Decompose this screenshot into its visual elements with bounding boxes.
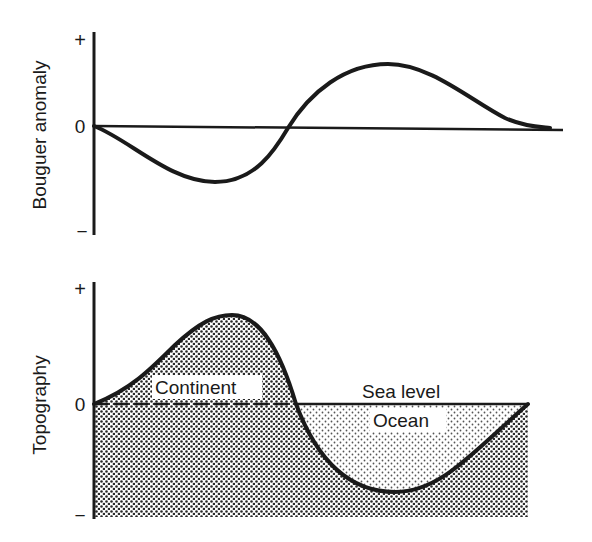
bottom-tick-plus: + <box>74 278 86 300</box>
continent-label: Continent <box>155 377 237 398</box>
diagram-canvas: Bouguer anomaly + 0 − Topography + 0 − C… <box>0 0 592 542</box>
bottom-tick-minus: − <box>74 505 85 526</box>
top-tick-minus: − <box>76 221 87 242</box>
bouguer-ylabel: Bouguer anomaly <box>29 60 50 209</box>
bottom-tick-zero: 0 <box>75 394 86 415</box>
bouguer-anomaly-panel: Bouguer anomaly + 0 − <box>29 29 563 242</box>
sea-level-label: Sea level <box>362 381 440 402</box>
topography-panel: Topography + 0 − Continent Sea level Oce… <box>29 278 528 526</box>
bouguer-anomaly-curve <box>94 64 550 182</box>
top-zero-line <box>94 126 563 130</box>
top-tick-plus: + <box>74 29 86 51</box>
topography-ylabel: Topography <box>29 355 50 455</box>
ocean-label: Ocean <box>373 410 429 431</box>
top-tick-zero: 0 <box>75 116 86 137</box>
